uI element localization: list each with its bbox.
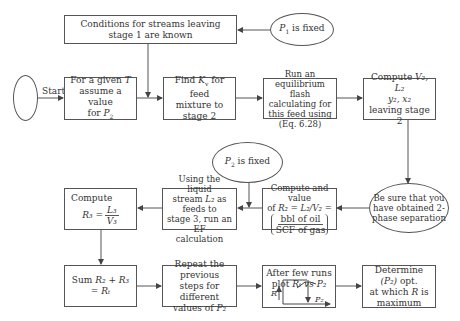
- determine-node: Determine (P₂) opt. at which R is maximu…: [362, 265, 436, 308]
- find-kv-node: Find Kv for feed mixture to stage 2: [163, 77, 236, 120]
- compute-r3-node: Compute R₃ = L₃V₃: [64, 188, 137, 230]
- compute-v2-node: Compute V₂, L₂ y₂, x₂ leaving stage 2: [363, 78, 436, 120]
- compute-value-node: Compute and value of R₂ = L₂/V₂ = bbl of…: [262, 188, 337, 230]
- start-label: Start: [42, 86, 65, 96]
- using-liquid-node: Using the liquid stream L₂ as feeds to s…: [162, 188, 237, 230]
- after-runs-node: After few runs plot Rₜ vs P₂: [262, 265, 336, 308]
- conditions-node: Conditions for streams leaving stage 1 a…: [64, 15, 237, 44]
- run-flash-node: Run an equilibrium flash calculating for…: [263, 78, 337, 119]
- start-node: [13, 75, 38, 121]
- plot-y-axis-label: R: [271, 289, 277, 298]
- given-t-node: For a given T assume a value for P2: [64, 77, 137, 120]
- be-sure-node: Be sure that you have obtained 2- phase …: [369, 183, 449, 233]
- repeat-node: Repeat the previous steps for different …: [162, 265, 237, 307]
- plot-x-axis-label: P₂: [315, 295, 324, 304]
- p1-fixed-node: P1 is fixed: [270, 13, 334, 46]
- sum-node: Sum R₂ + R₃ = Rₜ: [64, 265, 137, 307]
